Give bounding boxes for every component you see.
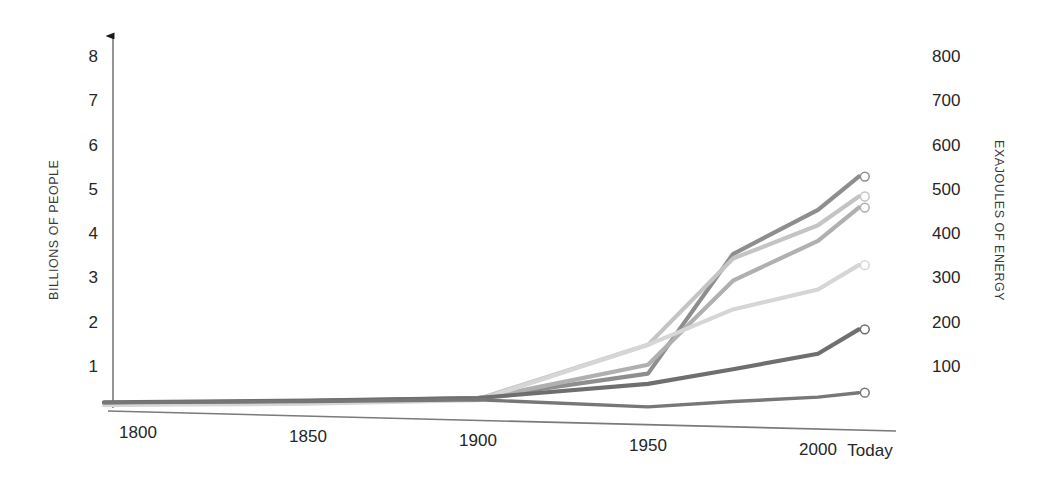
y-tick-left-6: 6 — [68, 137, 98, 154]
y-tick-left-4: 4 — [68, 225, 98, 242]
x-tick-1800: 1800 — [103, 424, 173, 441]
y-tick-left-1: 1 — [68, 358, 98, 375]
y-tick-right-700: 700 — [932, 92, 978, 109]
x-tick-1950: 1950 — [613, 437, 683, 454]
y-tick-right-300: 300 — [932, 269, 978, 286]
y-tick-right-600: 600 — [932, 137, 978, 154]
series-line-1 — [104, 177, 859, 404]
y-axis-title-right: EXAJOULES OF ENERGY — [993, 140, 1006, 301]
population-energy-line-chart: BILLIONS OF PEOPLE EXAJOULES OF ENERGY 1… — [0, 0, 1051, 483]
y-tick-right-400: 400 — [932, 225, 978, 242]
series-endpoint-marker-1 — [860, 172, 869, 181]
series-endpoint-marker-3 — [860, 203, 869, 212]
series-endpoint-marker-5 — [860, 325, 869, 334]
x-tick-today: Today — [835, 442, 905, 459]
x-tick-1900: 1900 — [443, 432, 513, 449]
y-tick-right-500: 500 — [932, 181, 978, 198]
data-series-layer — [104, 177, 859, 407]
y-tick-right-100: 100 — [932, 358, 978, 375]
series-line-4 — [104, 265, 859, 405]
y-tick-left-2: 2 — [68, 314, 98, 331]
x-axis-line — [108, 411, 896, 431]
y-axis-title-left: BILLIONS OF PEOPLE — [48, 159, 61, 300]
plot-area — [0, 0, 1051, 483]
series-endpoint-marker-6 — [860, 388, 869, 397]
y-tick-right-200: 200 — [932, 314, 978, 331]
endpoint-marker-layer — [860, 172, 869, 397]
y-tick-left-5: 5 — [68, 181, 98, 198]
x-tick-1850: 1850 — [273, 428, 343, 445]
y-tick-left-8: 8 — [68, 48, 98, 65]
y-tick-left-3: 3 — [68, 269, 98, 286]
series-endpoint-marker-2 — [860, 192, 869, 201]
series-endpoint-marker-4 — [860, 261, 869, 270]
y-tick-right-800: 800 — [932, 48, 978, 65]
series-line-2 — [104, 197, 859, 405]
y-tick-left-7: 7 — [68, 92, 98, 109]
series-line-5 — [104, 329, 859, 402]
